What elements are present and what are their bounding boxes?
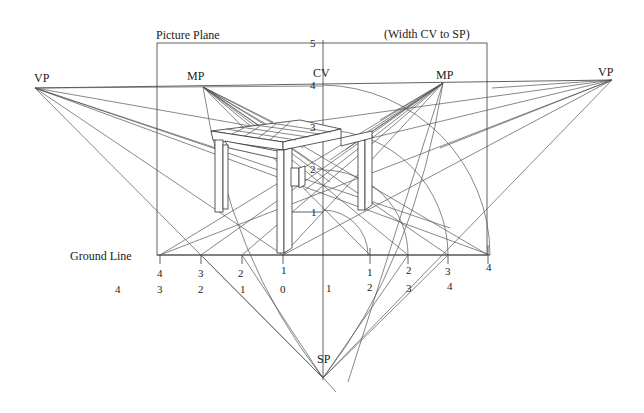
svg-text:2: 2 bbox=[198, 283, 204, 295]
svg-text:3: 3 bbox=[406, 282, 412, 294]
svg-text:3: 3 bbox=[198, 267, 204, 279]
svg-text:2: 2 bbox=[367, 281, 373, 293]
vp-right-rays bbox=[160, 80, 612, 378]
sp-label: SP bbox=[317, 352, 331, 366]
ground-tick-labels-left: 4 3 2 1 bbox=[157, 264, 287, 279]
svg-text:2: 2 bbox=[406, 264, 412, 276]
svg-text:1: 1 bbox=[311, 206, 317, 218]
svg-text:1: 1 bbox=[326, 282, 332, 294]
svg-text:3: 3 bbox=[445, 265, 451, 277]
svg-text:3: 3 bbox=[310, 121, 316, 133]
mp-right-label: MP bbox=[436, 68, 454, 82]
svg-text:1: 1 bbox=[367, 266, 373, 278]
svg-text:4: 4 bbox=[310, 79, 316, 91]
ground-line-label: Ground Line bbox=[70, 249, 132, 263]
svg-text:2: 2 bbox=[310, 163, 316, 175]
perspective-diagram: Picture Plane (Width CV to SP) VP VP MP … bbox=[0, 0, 644, 413]
svg-text:0: 0 bbox=[280, 283, 286, 295]
picture-plane-label: Picture Plane bbox=[156, 28, 220, 42]
mp-left-label: MP bbox=[187, 69, 205, 83]
width-note-label: (Width CV to SP) bbox=[384, 27, 470, 41]
svg-text:5: 5 bbox=[310, 37, 316, 49]
svg-text:4: 4 bbox=[115, 283, 121, 295]
cv-label: CV bbox=[313, 66, 330, 80]
svg-text:4: 4 bbox=[157, 267, 163, 279]
svg-text:4: 4 bbox=[447, 280, 453, 292]
bottom-scale: 4 3 2 1 0 1 2 3 4 bbox=[115, 280, 453, 295]
svg-text:4: 4 bbox=[486, 261, 492, 273]
horizon-lines bbox=[35, 80, 612, 88]
svg-text:3: 3 bbox=[157, 283, 163, 295]
svg-text:1: 1 bbox=[240, 283, 246, 295]
vp-right-label: VP bbox=[598, 65, 614, 79]
vp-left-label: VP bbox=[34, 71, 50, 85]
svg-text:2: 2 bbox=[238, 267, 244, 279]
ground-ticks bbox=[160, 245, 488, 264]
svg-text:1: 1 bbox=[281, 264, 287, 276]
